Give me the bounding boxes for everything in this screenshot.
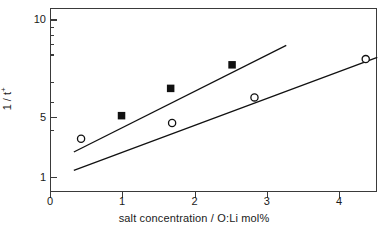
x-ticklabel-4: 4 xyxy=(327,196,351,207)
y-minor-tick-3 xyxy=(50,102,54,103)
chart-figure: 10 5 1 0 1 2 3 4 salt concentration / O:… xyxy=(0,0,388,236)
y-ticklabel-1: 1 xyxy=(22,172,46,183)
plot-frame xyxy=(50,8,377,192)
y-tick-5 xyxy=(50,117,57,118)
x-ticklabel-0: 0 xyxy=(38,196,62,207)
y-tick-1 xyxy=(50,177,57,178)
x-ticklabel-3: 3 xyxy=(255,196,279,207)
x-ticklabel-2: 2 xyxy=(183,196,207,207)
y-tick-10 xyxy=(50,19,57,20)
x-ticklabel-1: 1 xyxy=(110,196,134,207)
y-minor-tick-4 xyxy=(50,82,54,83)
y-minor-tick-9 xyxy=(50,27,54,28)
y-minor-tick-6 xyxy=(50,54,54,55)
y-axis-label-text: 1 / t xyxy=(1,92,13,110)
y-minor-tick-7 xyxy=(50,44,54,45)
y-minor-tick-8 xyxy=(50,35,54,36)
x-axis-label: salt concentration / O:Li mol% xyxy=(0,212,388,224)
y-axis-label: 1 / t+ xyxy=(0,69,13,129)
y-axis-label-superscript: + xyxy=(0,87,8,92)
y-ticklabel-10: 10 xyxy=(22,14,46,25)
y-ticklabel-5: 5 xyxy=(22,112,46,123)
y-minor-tick-2 xyxy=(50,130,54,131)
